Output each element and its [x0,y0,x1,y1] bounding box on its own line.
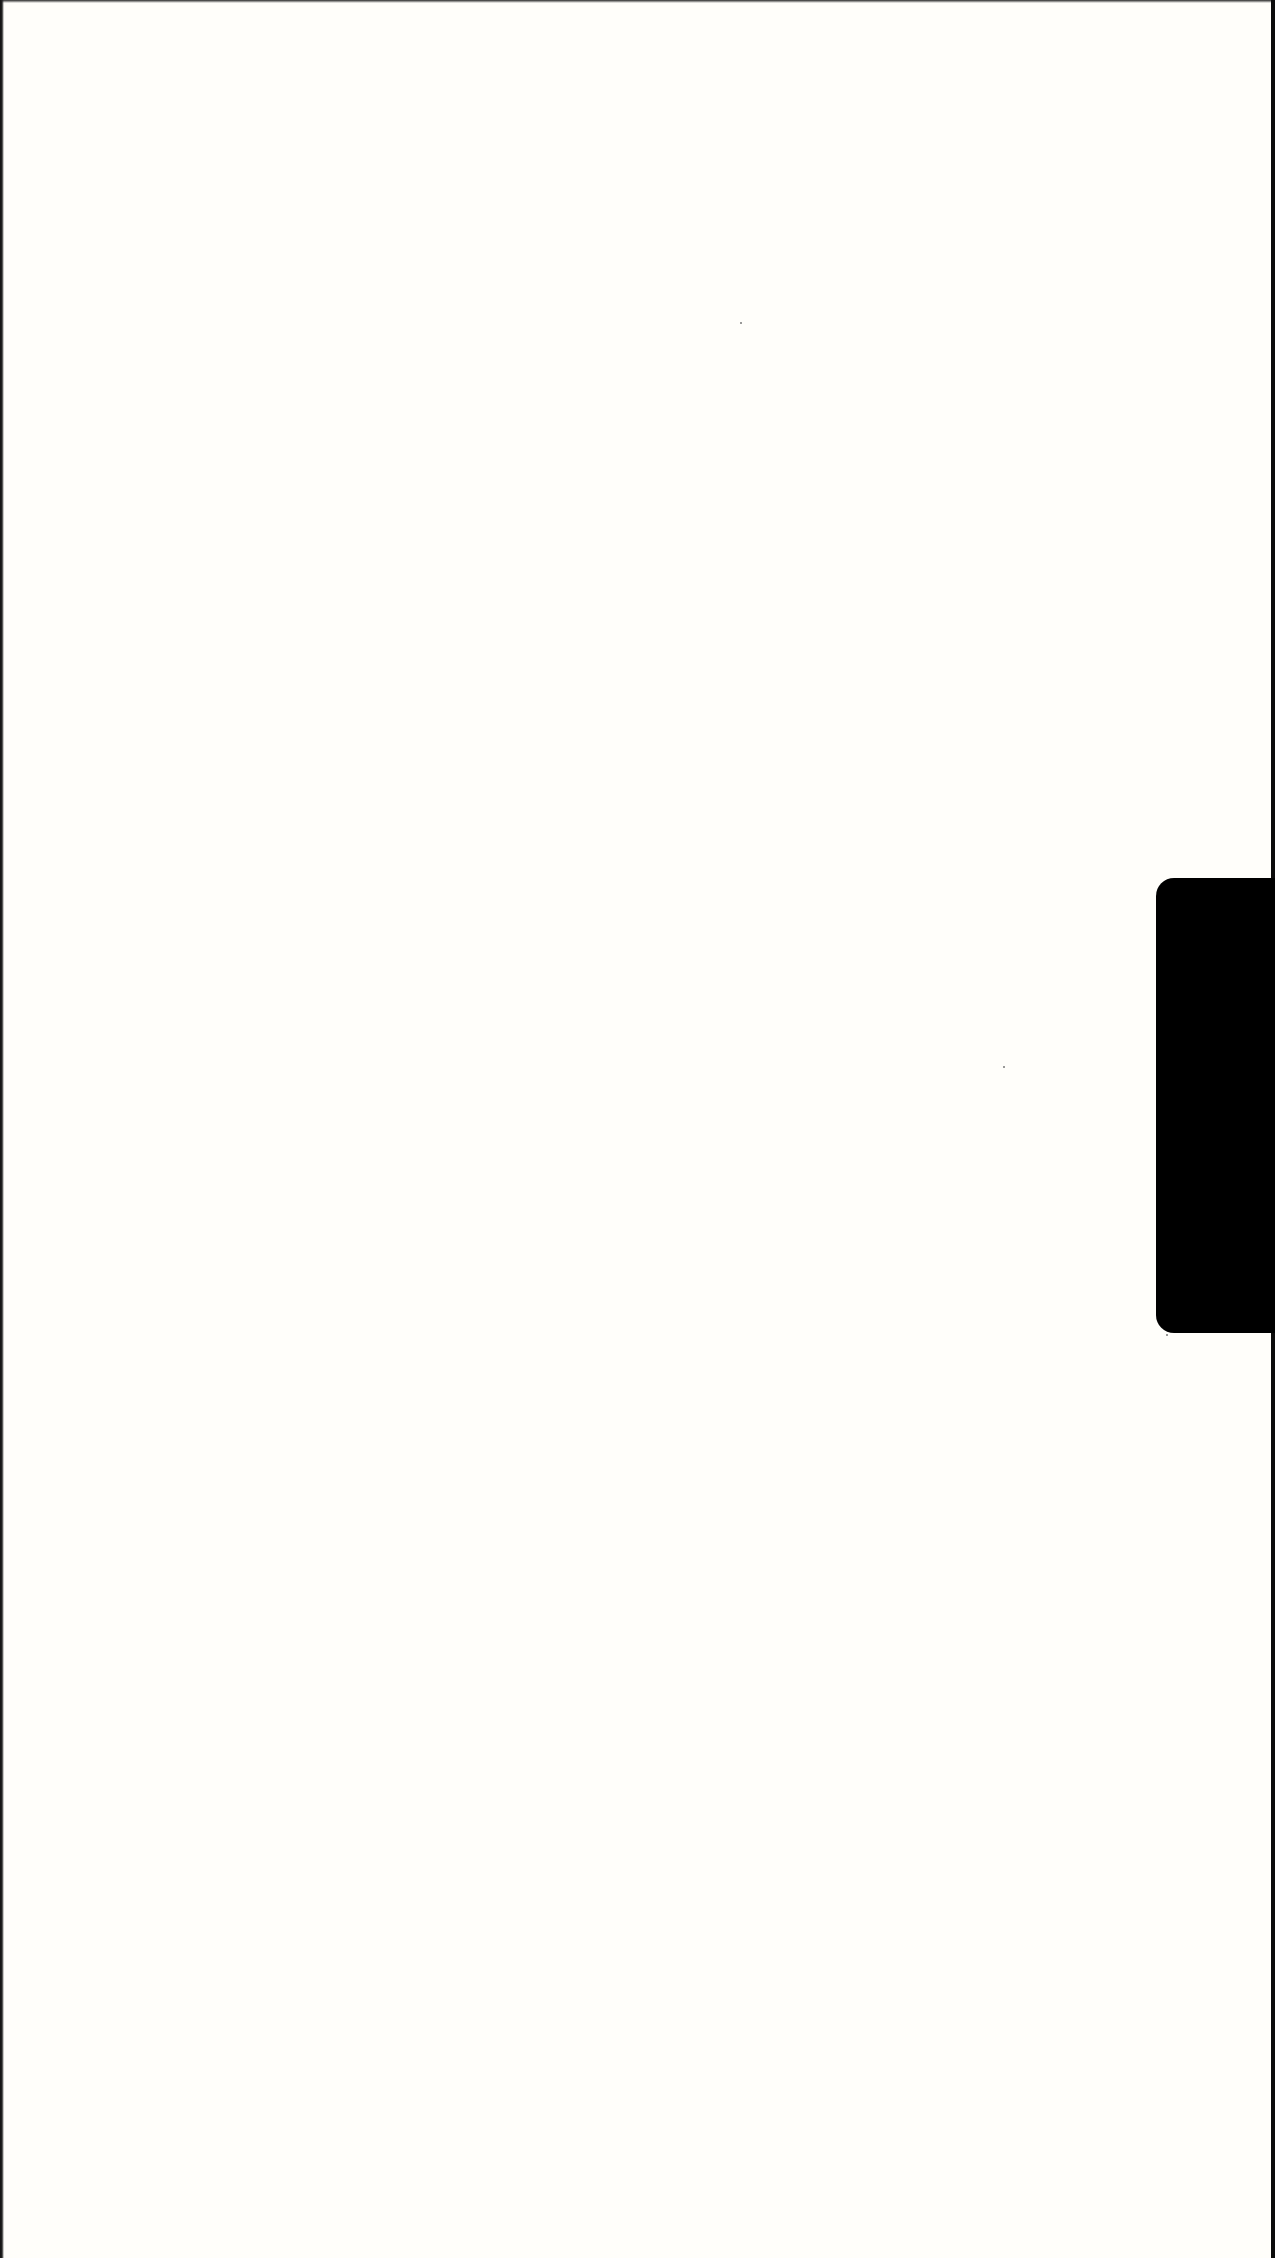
top-page-edge [0,0,1275,3]
scan-speck [1166,1334,1168,1336]
scan-speck [1003,1066,1005,1068]
index-tab-label [1156,878,1275,1333]
scanned-page [0,0,1275,2258]
index-tab [1156,878,1275,1333]
scan-speck [740,322,742,324]
left-page-edge [0,0,4,2258]
